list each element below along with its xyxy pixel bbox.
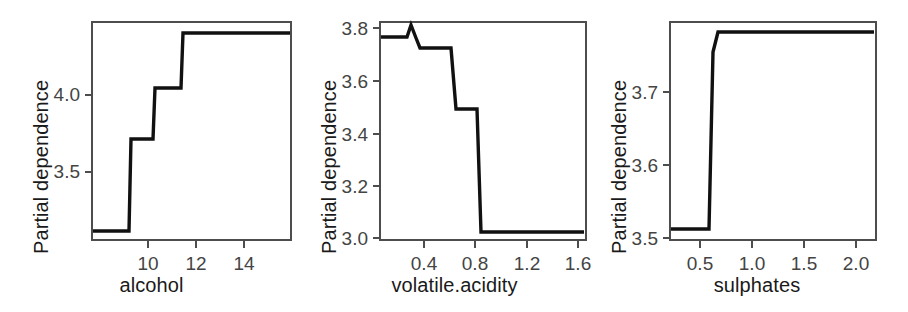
y-tick-label: 3.0 (342, 228, 368, 249)
pdp-step-line (93, 33, 290, 231)
y-tick-label: 3.8 (342, 18, 368, 39)
x-tick-label: 14 (233, 253, 255, 274)
plot-area-volatile-acidity: 3.8 3.6 3.4 3.2 3.0 0.4 0.8 1.2 1.6 (303, 0, 606, 312)
x-tick-marks (424, 240, 578, 248)
y-tick-label: 3.5 (54, 161, 80, 182)
y-axis-title: Partial dependence (30, 80, 53, 254)
x-axis-title: sulphates (606, 274, 908, 297)
y-axis-title: Partial dependence (608, 80, 631, 254)
pdp-step-line (671, 32, 874, 229)
x-tick-label: 0.4 (411, 253, 438, 274)
x-tick-label: 2.0 (843, 253, 869, 274)
plot-area-sulphates: 3.7 3.6 3.5 0.5 1.0 1.5 2.0 (606, 0, 908, 312)
x-tick-label: 0.5 (687, 253, 713, 274)
plot-border (670, 22, 876, 240)
y-tick-label: 3.6 (342, 71, 368, 92)
x-tick-label: 1.5 (791, 253, 817, 274)
panel-sulphates: 3.7 3.6 3.5 0.5 1.0 1.5 2.0 Partial depe… (606, 0, 908, 312)
y-tick-label: 3.7 (632, 82, 658, 103)
y-tick-label: 4.0 (54, 84, 80, 105)
plot-border (380, 22, 586, 240)
x-tick-marks (700, 240, 856, 248)
y-tick-marks (85, 95, 92, 172)
x-tick-marks (148, 240, 244, 248)
y-tick-marks (663, 92, 670, 238)
x-tick-label: 1.2 (514, 253, 540, 274)
y-axis-title: Partial dependence (318, 80, 341, 254)
plot-border (92, 22, 291, 240)
x-axis-title: volatile.acidity (303, 274, 606, 297)
x-tick-label: 0.8 (462, 253, 488, 274)
panel-volatile-acidity: 3.8 3.6 3.4 3.2 3.0 0.4 0.8 1.2 1.6 Part… (303, 0, 606, 312)
y-tick-marks (373, 28, 380, 238)
y-tick-label: 3.5 (632, 228, 658, 249)
partial-dependence-figure: 4.0 3.5 10 12 14 Partial dependence alco… (0, 0, 908, 312)
pdp-step-line (381, 25, 584, 232)
panel-alcohol: 4.0 3.5 10 12 14 Partial dependence alco… (0, 0, 303, 312)
x-tick-label: 12 (185, 253, 206, 274)
x-tick-label: 1.0 (739, 253, 765, 274)
y-tick-label: 3.6 (632, 155, 658, 176)
x-tick-label: 10 (137, 253, 158, 274)
y-tick-label: 3.4 (342, 124, 369, 145)
x-axis-title: alcohol (0, 274, 303, 297)
x-tick-label: 1.6 (565, 253, 591, 274)
y-tick-label: 3.2 (342, 176, 368, 197)
